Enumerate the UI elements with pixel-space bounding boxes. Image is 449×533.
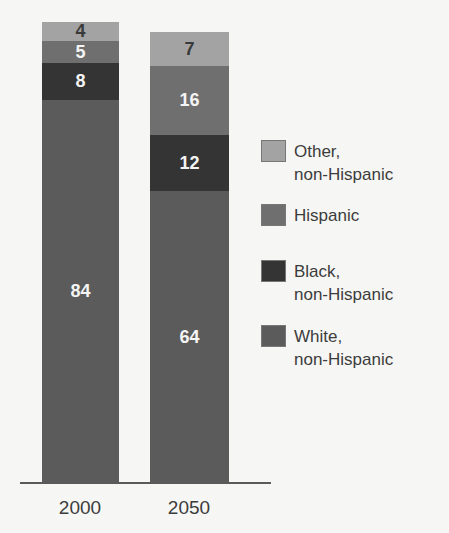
- legend-item-hispanic: Hispanic: [261, 204, 359, 227]
- segment-2050-black: 12: [150, 135, 229, 191]
- legend-label-hispanic: Hispanic: [294, 204, 359, 227]
- legend-item-white: White, non-Hispanic: [261, 325, 393, 371]
- bar-2050: 7 16 12 64: [150, 32, 229, 483]
- legend-item-other: Other, non-Hispanic: [261, 140, 393, 186]
- legend-label-other-line2: non-Hispanic: [294, 163, 393, 186]
- legend-item-black: Black, non-Hispanic: [261, 260, 393, 306]
- label-2050-black: 12: [179, 153, 199, 174]
- legend-label-black-line2: non-Hispanic: [294, 283, 393, 306]
- segment-2050-hispanic: 16: [150, 66, 229, 135]
- segment-2050-white: 64: [150, 191, 229, 483]
- legend-swatch-other: [261, 140, 286, 162]
- label-2000-hispanic: 5: [75, 42, 85, 63]
- segment-2000-black: 8: [42, 63, 119, 100]
- segment-2000-white: 84: [42, 100, 119, 483]
- label-2050-white: 64: [179, 327, 199, 348]
- x-tick-2000: 2000: [40, 497, 120, 519]
- segment-2000-hispanic: 5: [42, 41, 119, 63]
- label-2000-black: 8: [75, 71, 85, 92]
- label-2050-hispanic: 16: [179, 90, 199, 111]
- label-2000-other: 4: [75, 21, 85, 42]
- x-tick-2050: 2050: [149, 497, 229, 519]
- legend-swatch-white: [261, 325, 286, 347]
- legend-swatch-black: [261, 260, 286, 282]
- segment-2050-other: 7: [150, 32, 229, 66]
- label-2050-other: 7: [184, 39, 194, 60]
- legend-label-other-line1: Other,: [294, 140, 393, 163]
- x-axis-line: [20, 482, 271, 484]
- legend-label-white-line2: non-Hispanic: [294, 348, 393, 371]
- bar-2000: 4 5 8 84: [42, 22, 119, 483]
- legend-swatch-hispanic: [261, 204, 286, 226]
- segment-2000-other: 4: [42, 22, 119, 41]
- legend-label-white-line1: White,: [294, 325, 393, 348]
- label-2000-white: 84: [70, 281, 90, 302]
- legend-label-black-line1: Black,: [294, 260, 393, 283]
